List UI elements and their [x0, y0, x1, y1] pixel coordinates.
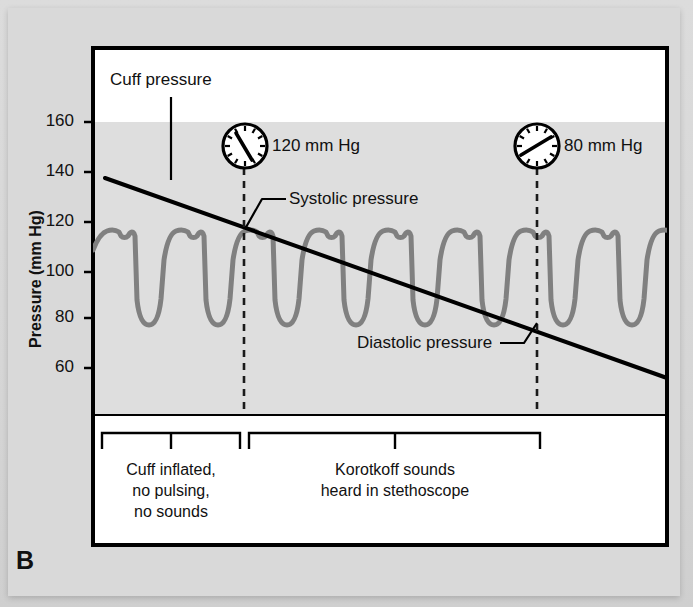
- gauge-systolic-icon: [223, 124, 267, 168]
- gauge-diastolic-icon: [515, 124, 559, 168]
- bracket-cuff-line2: no pulsing,: [91, 480, 251, 501]
- gauge-systolic-label: 120 mm Hg: [272, 136, 360, 156]
- diastolic-pressure-annotation: Diastolic pressure: [357, 333, 492, 353]
- cuff-pressure-annotation: Cuff pressure: [110, 70, 212, 90]
- y-tick-label-60: 60: [28, 357, 74, 377]
- y-tick-label-160: 160: [28, 111, 74, 131]
- bracket-label-cuff-inflated: Cuff inflated, no pulsing, no sounds: [91, 459, 251, 522]
- bracket-korotkoff-line2: heard in stethoscope: [285, 480, 505, 501]
- y-tick-label-140: 140: [28, 161, 74, 181]
- panel-letter: B: [16, 546, 34, 575]
- figure-root: Pressure (mm Hg) 160 140 120 100 80 60 C…: [0, 0, 693, 607]
- y-tick-label-120: 120: [28, 211, 74, 231]
- bracket-korotkoff-line1: Korotkoff sounds: [285, 459, 505, 480]
- y-tick-label-80: 80: [28, 307, 74, 327]
- shaded-region: [93, 122, 667, 415]
- gauge-diastolic-label: 80 mm Hg: [564, 136, 642, 156]
- y-tick-label-100: 100: [28, 261, 74, 281]
- bracket-label-korotkoff: Korotkoff sounds heard in stethoscope: [285, 459, 505, 501]
- bracket-cuff-line3: no sounds: [91, 501, 251, 522]
- bracket-cuff-line1: Cuff inflated,: [91, 459, 251, 480]
- systolic-pressure-annotation: Systolic pressure: [289, 189, 418, 209]
